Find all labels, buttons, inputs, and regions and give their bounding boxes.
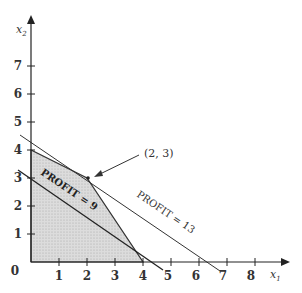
- y-tick-label: 6: [14, 87, 22, 101]
- y-tick-label: 1: [14, 227, 22, 241]
- y-tick-label: 5: [14, 115, 22, 129]
- x-tick-label: 7: [219, 269, 227, 283]
- y-tick-label: 2: [14, 199, 22, 213]
- x-tick-label: 6: [192, 269, 200, 283]
- arrow-head-icon: [94, 170, 103, 177]
- linear-programming-chart: 0 1 2 3 4 5 6 7 8 x1 1 2 3 4 5 6 7 x2 (2…: [0, 0, 302, 293]
- x-tick-label: 8: [247, 269, 255, 283]
- y-tick-label: 7: [14, 59, 22, 73]
- x-tick-label: 5: [164, 269, 172, 283]
- y-tick-label: 4: [14, 143, 22, 157]
- x-tick-label: 2: [83, 269, 91, 283]
- x-tick-label: 1: [55, 269, 63, 283]
- x-tick-label: 4: [139, 269, 147, 283]
- x-tick-label: 3: [111, 269, 119, 283]
- y-axis-label: x2: [16, 23, 27, 38]
- y-tick-label: 3: [14, 171, 22, 185]
- x-axis-arrow-icon: [281, 258, 290, 266]
- origin-label: 0: [11, 264, 19, 278]
- vertex-point: [86, 176, 90, 180]
- profit-13-label: PROFIT = 13: [135, 189, 197, 236]
- vertex-arrow: [98, 155, 139, 175]
- vertex-label: (2, 3): [144, 147, 174, 160]
- x-axis-label: x1: [270, 268, 281, 283]
- y-axis-arrow-icon: [27, 15, 35, 24]
